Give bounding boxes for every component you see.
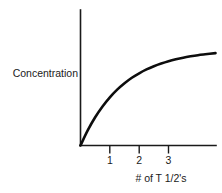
axes-group — [80, 10, 216, 146]
x-tick-label-1: 1 — [100, 154, 120, 166]
y-axis-label: Concentration — [10, 67, 78, 80]
concentration-curve — [81, 53, 216, 145]
data-series-group — [81, 53, 216, 145]
x-tick-label-3: 3 — [159, 154, 179, 166]
concentration-vs-half-lives-chart: Concentration 1 2 3 # of T 1/2's — [0, 0, 222, 193]
x-tick-label-2: 2 — [129, 154, 149, 166]
x-axis-ticks-group — [110, 146, 169, 154]
x-axis-label: # of T 1/2's — [100, 172, 222, 185]
